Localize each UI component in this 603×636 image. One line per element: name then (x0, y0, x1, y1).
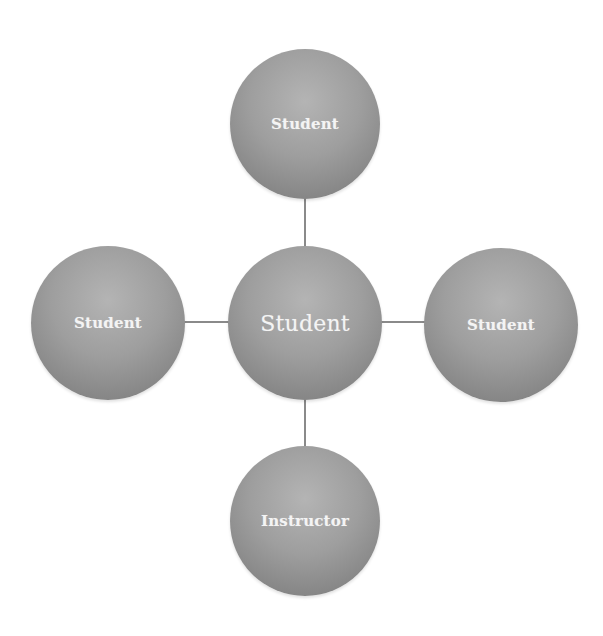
node-bottom: Instructor (230, 446, 380, 596)
node-right: Student (424, 248, 578, 402)
node-center: Student (228, 246, 382, 400)
node-right-label: Student (467, 316, 535, 334)
connector-top (304, 198, 306, 248)
node-left: Student (31, 246, 185, 400)
node-top-label: Student (271, 115, 339, 133)
hub-and-spoke-diagram: Student Student Student Student Instruct… (0, 0, 603, 636)
node-center-label: Student (260, 311, 350, 336)
connector-bottom (304, 398, 306, 448)
node-top: Student (230, 49, 380, 199)
connector-left (184, 321, 230, 323)
connector-right (380, 321, 426, 323)
node-bottom-label: Instructor (261, 512, 349, 530)
node-left-label: Student (74, 314, 142, 332)
